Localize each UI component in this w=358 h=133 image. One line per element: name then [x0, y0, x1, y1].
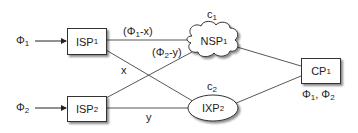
- edge-label-isp1-nsp1: (Φ1-x): [123, 25, 153, 41]
- edge-nsp1-cp1: [237, 47, 301, 66]
- isp2-node[interactable]: ISP2: [67, 96, 107, 122]
- cp1-node[interactable]: CP1: [301, 58, 341, 84]
- node-name: ISP: [76, 36, 94, 48]
- label-pre: (Φ: [152, 46, 164, 58]
- node-name: ISP: [76, 103, 94, 115]
- label-post: -x): [140, 25, 153, 37]
- phi-subscript: 2: [25, 106, 29, 115]
- isp1-node[interactable]: ISP1: [67, 28, 107, 55]
- phi-symbol: Φ: [302, 88, 311, 100]
- edge-ixp2-cp1: [234, 76, 301, 104]
- node-subscript: 2: [94, 105, 98, 114]
- edge-label-isp2-ixp2: y: [146, 111, 152, 123]
- node-name: CP: [311, 65, 326, 77]
- input-label-phi2: Φ2: [16, 101, 29, 117]
- input-label-phi1: Φ1: [16, 34, 29, 50]
- cost-subscript: 2: [213, 85, 217, 94]
- node-name: IXP: [202, 102, 220, 114]
- ixp2-node[interactable]: IXP2: [190, 97, 236, 119]
- label-post: -y): [169, 46, 182, 58]
- node-subscript: 1: [326, 67, 330, 76]
- phi-subscript: 2: [330, 93, 334, 102]
- nsp1-cost-label: c1: [207, 8, 217, 24]
- edge-isp1-ixp2: [106, 50, 196, 103]
- edge-label-isp2-nsp1: (Φ2-y): [152, 46, 182, 62]
- edge-label-isp1-ixp2: x: [121, 64, 127, 76]
- phi-symbol: Φ: [321, 88, 330, 100]
- node-subscript: 1: [223, 37, 227, 46]
- label-pre: (Φ: [123, 25, 135, 37]
- node-name: NSP: [200, 35, 223, 47]
- nsp1-node[interactable]: NSP1: [190, 30, 238, 52]
- ixp2-cost-label: c2: [207, 80, 217, 96]
- phi-subscript: 1: [25, 39, 29, 48]
- node-subscript: 1: [94, 37, 98, 46]
- cp1-flow-label: Φ1, Φ2: [302, 88, 335, 104]
- cost-subscript: 1: [213, 13, 217, 22]
- node-subscript: 2: [220, 104, 224, 113]
- phi-symbol: Φ: [16, 34, 25, 46]
- phi-symbol: Φ: [16, 101, 25, 113]
